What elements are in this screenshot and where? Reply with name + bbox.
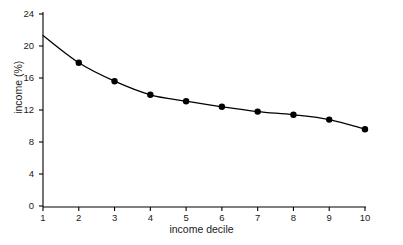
plot-area xyxy=(0,0,403,245)
data-point-marker xyxy=(254,108,260,114)
y-tick-label: 0 xyxy=(8,201,34,211)
y-tick-label: 24 xyxy=(8,9,34,19)
data-point-marker xyxy=(76,60,82,66)
x-tick-label: 7 xyxy=(243,213,273,223)
data-point-marker xyxy=(219,104,225,110)
data-point-marker xyxy=(362,126,368,132)
x-tick-label: 2 xyxy=(64,213,94,223)
x-tick-label: 1 xyxy=(28,213,58,223)
data-point-marker xyxy=(111,78,117,84)
y-tick-label: 4 xyxy=(8,169,34,179)
y-axis-title: income (%) xyxy=(13,27,24,147)
x-tick-marks xyxy=(43,207,365,211)
x-tick-label: 6 xyxy=(207,213,237,223)
income-decile-chart: 04812162024 12345678910 income decile in… xyxy=(0,0,403,245)
income-series-line xyxy=(43,36,365,130)
data-point-marker xyxy=(326,116,332,122)
x-tick-label: 8 xyxy=(278,213,308,223)
axis-lines xyxy=(43,12,366,207)
data-point-marker xyxy=(147,92,153,98)
data-point-marker xyxy=(183,98,189,104)
x-tick-label: 9 xyxy=(314,213,344,223)
income-series-markers xyxy=(76,60,369,133)
x-tick-label: 3 xyxy=(100,213,130,223)
x-tick-label: 5 xyxy=(171,213,201,223)
x-axis-title: income decile xyxy=(0,224,403,235)
x-tick-label: 10 xyxy=(350,213,380,223)
data-point-marker xyxy=(290,112,296,118)
y-tick-marks xyxy=(39,14,43,206)
x-tick-label: 4 xyxy=(135,213,165,223)
